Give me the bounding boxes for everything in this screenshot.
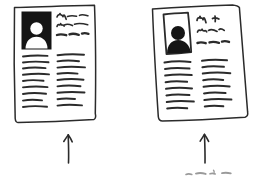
sketch-diagram (0, 0, 253, 176)
sketch-canvas (0, 0, 253, 176)
right-photo-head (171, 26, 185, 40)
left-photo-placeholder (22, 12, 51, 49)
left-photo-head (30, 22, 42, 34)
